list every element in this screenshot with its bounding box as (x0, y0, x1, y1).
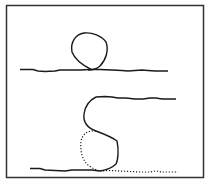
s-curve (84, 97, 118, 171)
dotted-baseline-tail (100, 171, 178, 173)
bottom-upper-wavy-line (96, 97, 176, 100)
frame-border (7, 6, 204, 178)
dotted-loop (81, 131, 100, 171)
diagram (0, 0, 209, 182)
bottom-lower-wavy-line (30, 169, 100, 172)
top-loop (72, 33, 108, 70)
